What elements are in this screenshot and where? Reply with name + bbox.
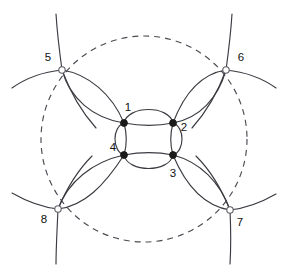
tail-arc-7-right xyxy=(230,194,276,210)
lens-arc-6-2-lower xyxy=(173,70,226,123)
inner-square-arcs xyxy=(115,110,182,169)
vertex-label-3: 3 xyxy=(170,167,176,179)
inner-arc-1-4-chord xyxy=(124,123,126,155)
tail-arc-6-up xyxy=(226,14,232,70)
tail-arc-7-down xyxy=(230,210,231,264)
vertex-label-2: 2 xyxy=(181,121,187,133)
tail-arc-5-down xyxy=(62,70,96,128)
tail-arc-8-left xyxy=(12,193,58,209)
tail-arc-8-down xyxy=(56,209,58,264)
inner-arc-1-2-bulge xyxy=(124,110,173,124)
lens-arc-7-3-lower xyxy=(173,155,230,210)
vertex-marker-7[interactable] xyxy=(227,207,233,213)
inner-arc-1-2-chord xyxy=(124,123,173,125)
tail-arc-5-up xyxy=(56,14,62,70)
vertex-marker-1[interactable] xyxy=(121,120,128,127)
vertex-marker-8[interactable] xyxy=(55,206,61,212)
vertex-marker-4[interactable] xyxy=(121,152,128,159)
lens-arc-8-4-upper xyxy=(58,155,124,209)
vertex-marker-2[interactable] xyxy=(170,120,177,127)
inner-arc-4-3-chord xyxy=(124,153,173,155)
vertex-marker-6[interactable] xyxy=(223,67,229,73)
vertex-label-6: 6 xyxy=(238,51,244,63)
vertex-marker-3[interactable] xyxy=(170,152,177,159)
dashed-bounding-circle xyxy=(41,36,247,242)
inner-arc-2-3-chord xyxy=(171,123,173,155)
lens-arc-5-1-lower xyxy=(62,70,124,123)
lens-arc-5-1-upper xyxy=(62,70,124,123)
inner-arc-4-3-bulge xyxy=(124,155,173,169)
vertex-label-group: 12345678 xyxy=(41,51,244,228)
vertex-marker-5[interactable] xyxy=(59,67,65,73)
vertex-label-7: 7 xyxy=(237,216,243,228)
tail-arc-6-down xyxy=(192,70,226,128)
vertex-label-8: 8 xyxy=(41,213,47,225)
lens-arc-7-3-upper xyxy=(173,155,230,210)
tail-arc-5-left xyxy=(12,70,62,88)
tail-arc-6-right xyxy=(226,70,276,88)
arc-diagram-svg: 12345678 xyxy=(0,0,286,274)
diagonal-lens-arcs xyxy=(58,70,230,210)
vertex-label-1: 1 xyxy=(125,101,131,113)
vertex-label-4: 4 xyxy=(110,141,117,153)
figure-container: 12345678 xyxy=(0,0,286,274)
vertex-marker-group xyxy=(55,67,233,213)
lens-arc-6-2-upper xyxy=(173,70,226,123)
vertex-label-5: 5 xyxy=(45,51,51,63)
lens-arc-8-4-lower xyxy=(58,155,124,209)
inner-arc-1-4-bulge xyxy=(115,123,124,155)
